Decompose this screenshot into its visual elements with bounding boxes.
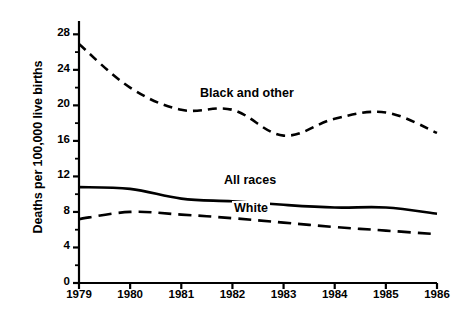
maternal-mortality-line-chart: Deaths per 100,000 live births 048121620… — [0, 0, 470, 313]
x-tick-label: 1983 — [261, 288, 307, 300]
x-tick-label: 1981 — [158, 288, 204, 300]
x-tick-label: 1982 — [209, 288, 255, 300]
x-axis-tick-labels: 19791980198119821983198419851986 — [0, 0, 470, 313]
series-label-white: White — [232, 201, 270, 215]
series-label-black-and-other: Black and other — [198, 86, 296, 100]
series-label-all-races: All races — [222, 173, 278, 187]
x-tick-label: 1980 — [107, 288, 153, 300]
x-tick-label: 1985 — [363, 288, 409, 300]
x-tick-label: 1979 — [56, 288, 102, 300]
x-tick-label: 1986 — [414, 288, 460, 300]
x-tick-label: 1984 — [312, 288, 358, 300]
